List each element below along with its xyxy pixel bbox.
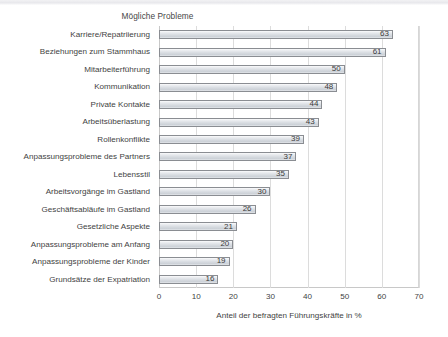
category-label: Kommunikation	[0, 78, 154, 95]
x-tick-label: 20	[213, 292, 253, 301]
bar-row: 35	[159, 166, 419, 183]
plot-area: 636150484443393735302621201916	[159, 26, 419, 288]
bar-row: 44	[159, 96, 419, 113]
bar-value-label: 37	[274, 151, 292, 163]
bar-series: 636150484443393735302621201916	[159, 26, 419, 288]
x-tick-label: 60	[362, 292, 402, 301]
bar-value-label: 35	[267, 168, 285, 180]
bar-value-label: 30	[248, 186, 266, 198]
bar-row: 21	[159, 218, 419, 235]
bar-row: 48	[159, 78, 419, 95]
bar-value-label: 48	[315, 81, 333, 93]
bar-row: 39	[159, 131, 419, 148]
bar-value-label: 26	[234, 203, 252, 215]
x-tick-label: 10	[176, 292, 216, 301]
bar-value-label: 19	[208, 255, 226, 267]
x-axis-title: Anteil der befragten Führungskräfte in %	[159, 311, 419, 320]
x-tick-label: 40	[288, 292, 328, 301]
category-axis-labels: Karriere/RepatriierungBeziehungen zum St…	[0, 26, 154, 288]
category-label: Grundsätze der Expatriation	[0, 271, 154, 288]
bar-row: 30	[159, 183, 419, 200]
category-label: Anpassungsprobleme des Partners	[0, 148, 154, 165]
bar-value-label: 50	[323, 63, 341, 75]
bar-value-label: 20	[211, 238, 229, 250]
bar-row: 37	[159, 148, 419, 165]
bar-row: 19	[159, 253, 419, 270]
bar[interactable]	[159, 65, 345, 74]
bar-row: 16	[159, 271, 419, 288]
bar-row: 50	[159, 61, 419, 78]
bar-value-label: 44	[300, 98, 318, 110]
category-label: Arbeitsvorgänge im Gastland	[0, 183, 154, 200]
bar-row: 61	[159, 43, 419, 60]
category-label: Karriere/Repatriierung	[0, 26, 154, 43]
x-tick-label: 0	[139, 292, 179, 301]
category-label: Private Kontakte	[0, 96, 154, 113]
x-tick-label: 30	[250, 292, 290, 301]
x-tick-label: 70	[399, 292, 439, 301]
category-label: Mitarbeiterführung	[0, 61, 154, 78]
bar[interactable]	[159, 118, 319, 127]
bar-value-label: 21	[215, 221, 233, 233]
x-tick-label: 50	[325, 292, 365, 301]
chart-title: Mögliche Probleme	[60, 11, 255, 21]
bar-row: 63	[159, 26, 419, 43]
category-label: Beziehungen zum Stammhaus	[0, 43, 154, 60]
bar-value-label: 39	[282, 133, 300, 145]
bar[interactable]	[159, 83, 337, 92]
bar-value-label: 16	[196, 273, 214, 285]
bar-value-label: 63	[371, 28, 389, 40]
bar-chart: Mögliche Probleme Karriere/Repatriierung…	[0, 0, 448, 337]
bar[interactable]	[159, 48, 386, 57]
bar-row: 43	[159, 113, 419, 130]
category-label: Anpassungsprobleme am Anfang	[0, 236, 154, 253]
category-label: Gesetzliche Aspekte	[0, 218, 154, 235]
category-label: Anpassungsprobleme der Kinder	[0, 253, 154, 270]
top-edge-band	[0, 0, 448, 5]
bar[interactable]	[159, 100, 322, 109]
bar-value-label: 43	[297, 116, 315, 128]
bar-row: 20	[159, 236, 419, 253]
bar[interactable]	[159, 30, 393, 39]
gridline-70	[419, 26, 420, 288]
bar-row: 26	[159, 201, 419, 218]
bar-value-label: 61	[364, 46, 382, 58]
category-label: Lebensstil	[0, 166, 154, 183]
category-label: Rollenkonflikte	[0, 131, 154, 148]
category-label: Geschäftsabläufe im Gastland	[0, 201, 154, 218]
category-label: Arbeitsüberlastung	[0, 113, 154, 130]
